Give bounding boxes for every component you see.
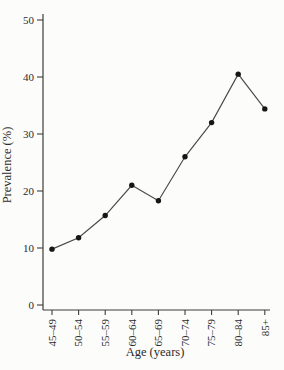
y-tick-label: 50 [23,14,35,26]
x-axis-title: Age (years) [126,345,185,359]
data-point [236,71,241,76]
x-tick-label: 55–59 [99,319,111,347]
x-tick-label: 45–49 [46,319,58,347]
x-tick-label: 75–79 [205,319,217,347]
y-tick-label: 20 [23,185,35,197]
data-point [262,106,267,111]
y-tick-label: 30 [23,128,35,140]
y-tick-label: 10 [23,242,35,254]
y-tick-label: 0 [29,299,35,311]
data-point [182,154,187,159]
data-point [129,183,134,188]
x-tick-label: 70–74 [179,319,191,347]
data-point [156,198,161,203]
data-point [103,213,108,218]
x-tick-label: 50–54 [72,319,84,347]
data-point [49,246,54,251]
x-tick-label: 85+ [259,319,271,336]
y-axis-title: Prevalence (%) [0,127,14,204]
data-point [76,235,81,240]
x-tick-label: 60–64 [126,319,138,347]
prevalence-line-chart: 0102030405045–4950–5455–5960–6465–6970–7… [0,0,284,370]
data-point [209,120,214,125]
x-tick-label: 65–69 [152,319,164,347]
y-tick-label: 40 [23,71,35,83]
x-tick-label: 80–84 [232,319,244,347]
series-line [52,74,265,249]
prevalence-by-age-figure: 0102030405045–4950–5455–5960–6465–6970–7… [0,0,284,370]
